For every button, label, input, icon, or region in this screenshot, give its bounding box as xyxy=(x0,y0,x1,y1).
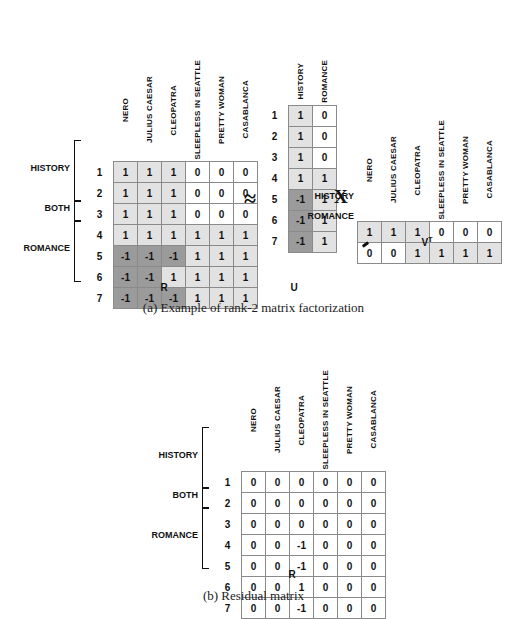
matrix-residual-cell: 0 xyxy=(362,514,386,535)
matrix-u-cell: 1 xyxy=(313,231,337,252)
matrix-r-cell: 1 xyxy=(186,246,210,267)
matrix-r-column-header: CLEOPATRA xyxy=(162,60,186,162)
matrix-residual-row-index: 4 xyxy=(216,535,242,556)
matrix-r-cell: 1 xyxy=(114,225,138,246)
matrix-residual-cell: 0 xyxy=(242,493,266,514)
matrix-r-column-header-label: NERO xyxy=(114,98,137,122)
matrix-u-row-index: 7 xyxy=(263,231,289,252)
matrix-residual-cell: 0 xyxy=(314,493,338,514)
matrix-u-cell: 0 xyxy=(313,126,337,147)
matrix-r-row: 5-1-1-1111 xyxy=(88,246,258,267)
matrix-r-column-header-label: PRETTY WOMAN xyxy=(210,76,233,144)
bracket-romance-a xyxy=(74,220,81,282)
matrix-residual-cell: 0 xyxy=(338,514,362,535)
matrix-residual-cell: 0 xyxy=(242,535,266,556)
matrix-r-cell: 1 xyxy=(114,204,138,225)
group-label-history-a: HISTORY xyxy=(10,163,70,173)
matrix-r-row-index: 1 xyxy=(88,162,114,183)
matrix-u-cell: 1 xyxy=(289,105,313,126)
matrix-vt-column-header: NERO xyxy=(358,120,382,222)
bracket-history-b xyxy=(202,427,209,489)
matrix-residual-cell: 0 xyxy=(338,493,362,514)
group-label-romance-a: ROMANCE xyxy=(10,243,70,253)
matrix-residual-row-index: 1 xyxy=(216,472,242,493)
matrix-residual-column-header: SLEEPLESS IN SEATTLE xyxy=(314,370,338,472)
matrix-u-cell: 1 xyxy=(289,126,313,147)
matrix-vt-column-header: JULIUS CAESAR xyxy=(382,120,406,222)
vt-superscript: T xyxy=(428,236,432,243)
matrix-r-cell: 1 xyxy=(138,162,162,183)
matrix-u-row: 7-11 xyxy=(263,231,337,252)
matrix-u-row: 310 xyxy=(263,147,337,168)
matrix-r-cell: 1 xyxy=(138,183,162,204)
matrix-r-cell: 0 xyxy=(210,162,234,183)
matrix-u-column-header: ROMANCE xyxy=(313,60,337,105)
matrix-residual-table: NEROJULIUS CAESARCLEOPATRASLEEPLESS IN S… xyxy=(216,370,386,619)
matrix-r-cell: 1 xyxy=(162,225,186,246)
matrix-r-row-index: 3 xyxy=(88,204,114,225)
matrix-r-row: 1111000 xyxy=(88,162,258,183)
bracket-both-b xyxy=(202,487,209,509)
matrix-vt-column-header-label: JULIUS CAESAR xyxy=(382,136,405,203)
matrix-r-cell: 1 xyxy=(138,225,162,246)
matrix-u-row: 411 xyxy=(263,168,337,189)
matrix-u-row: 110 xyxy=(263,105,337,126)
matrix-u-header-spacer xyxy=(263,60,289,105)
matrix-r-cell: 1 xyxy=(162,162,186,183)
matrix-residual: NEROJULIUS CAESARCLEOPATRASLEEPLESS IN S… xyxy=(216,370,386,619)
matrix-r-cell: 1 xyxy=(162,204,186,225)
matrix-residual-column-header: CASABLANCA xyxy=(362,370,386,472)
matrix-r-cell: 0 xyxy=(186,162,210,183)
matrix-u: HISTORYROMANCE1102103104115-116-117-11 xyxy=(263,60,337,253)
matrix-residual-row: 2000000 xyxy=(216,493,386,514)
matrix-r-cell: 1 xyxy=(210,225,234,246)
matrix-residual-cell: 0 xyxy=(314,472,338,493)
matrix-r-cell: -1 xyxy=(162,246,186,267)
matrix-u-column-header: HISTORY xyxy=(289,60,313,105)
matrix-r-cell: 0 xyxy=(210,183,234,204)
matrix-label-vt: VT xyxy=(357,236,497,248)
matrix-residual-column-header: CLEOPATRA xyxy=(290,370,314,472)
matrix-residual-column-header-label: SLEEPLESS IN SEATTLE xyxy=(314,370,337,469)
matrix-vt-column-header-label: PRETTY WOMAN xyxy=(454,136,477,204)
matrix-r-row-index: 4 xyxy=(88,225,114,246)
matrix-r-column-header-label: SLEEPLESS IN SEATTLE xyxy=(186,60,209,159)
matrix-residual-row: 1000000 xyxy=(216,472,386,493)
matrix-r-row: 4111111 xyxy=(88,225,258,246)
matrix-vt-column-header-label: NERO xyxy=(358,158,381,182)
caption-figure-b: (b) Residual matrix xyxy=(0,588,507,604)
matrix-r-cell: 0 xyxy=(234,162,258,183)
matrix-u-row-index: 4 xyxy=(263,168,289,189)
matrix-residual-row-index: 3 xyxy=(216,514,242,535)
matrix-r-cell: 0 xyxy=(186,204,210,225)
matrix-u-row-index: 6 xyxy=(263,210,289,231)
matrix-u-cell: -1 xyxy=(289,231,313,252)
matrix-u-cell: 1 xyxy=(289,147,313,168)
matrix-residual-cell: 0 xyxy=(266,535,290,556)
matrix-u-table: HISTORYROMANCE1102103104115-116-117-11 xyxy=(263,60,337,253)
matrix-residual-column-header: NERO xyxy=(242,370,266,472)
matrix-residual-column-header: JULIUS CAESAR xyxy=(266,370,290,472)
matrix-residual-cell: 0 xyxy=(266,514,290,535)
matrix-residual-row: 400-1000 xyxy=(216,535,386,556)
matrix-residual-column-header: PRETTY WOMAN xyxy=(338,370,362,472)
matrix-r-column-header-label: CLEOPATRA xyxy=(162,85,185,135)
group-label-romance-b: ROMANCE xyxy=(138,530,198,540)
matrix-r-factorization: NEROJULIUS CAESARCLEOPATRASLEEPLESS IN S… xyxy=(88,60,258,309)
matrix-vt-column-header: CASABLANCA xyxy=(478,120,502,222)
matrix-label-u: U xyxy=(263,282,325,293)
matrix-r-cell: 1 xyxy=(234,225,258,246)
matrix-residual-cell: 0 xyxy=(242,472,266,493)
matrix-residual-cell: 0 xyxy=(362,535,386,556)
matrix-residual-cell: 0 xyxy=(266,493,290,514)
matrix-r-row: 2111000 xyxy=(88,183,258,204)
caption-figure-a: (a) Example of rank-2 matrix factorizati… xyxy=(0,300,507,316)
matrix-residual-cell: 0 xyxy=(290,493,314,514)
matrix-r-cell: 1 xyxy=(162,183,186,204)
matrix-u-column-header-label: HISTORY xyxy=(289,63,312,100)
matrix-u-row-index: 2 xyxy=(263,126,289,147)
matrix-residual-column-header-label: CLEOPATRA xyxy=(290,395,313,445)
matrix-vt-column-header: PRETTY WOMAN xyxy=(454,120,478,222)
matrix-label-r-a: R xyxy=(88,282,240,293)
group-label-history-b: HISTORY xyxy=(138,450,198,460)
